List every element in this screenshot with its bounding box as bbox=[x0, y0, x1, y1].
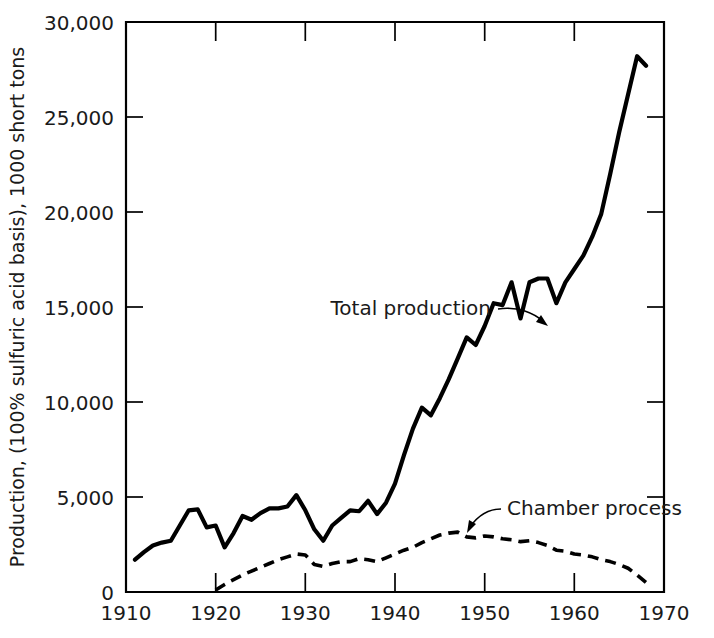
y-tick-label-10000: 10,000 bbox=[44, 391, 114, 415]
y-axis-title: Production, (100% sulfuric acid basis), … bbox=[6, 47, 28, 567]
y-tick-label-25000: 25,000 bbox=[44, 106, 114, 130]
annotation-chamber-process: Chamber process bbox=[467, 496, 682, 533]
production-line-chart: 0 5,000 10,000 15,000 20,000 25,000 30,0… bbox=[0, 0, 714, 638]
x-tick-label-1940: 1940 bbox=[370, 601, 421, 625]
y-axis-ticks-right bbox=[647, 117, 664, 497]
x-tick-label-1930: 1930 bbox=[280, 601, 331, 625]
x-tick-label-1950: 1950 bbox=[459, 601, 510, 625]
y-axis-ticks bbox=[126, 117, 143, 497]
y-tick-label-15000: 15,000 bbox=[44, 296, 114, 320]
y-tick-label-20000: 20,000 bbox=[44, 201, 114, 225]
annotation-total-production-label: Total production bbox=[330, 296, 491, 320]
annotation-chamber-process-label: Chamber process bbox=[507, 496, 682, 520]
x-axis-ticks-top bbox=[216, 22, 575, 41]
y-tick-label-5000: 5,000 bbox=[57, 486, 114, 510]
y-tick-label-30000: 30,000 bbox=[44, 11, 114, 35]
x-tick-label-1960: 1960 bbox=[549, 601, 600, 625]
series-chamber-process bbox=[216, 532, 646, 590]
x-axis-ticks bbox=[216, 573, 575, 592]
chart-figure: 0 5,000 10,000 15,000 20,000 25,000 30,0… bbox=[0, 0, 714, 638]
x-tick-label-1910: 1910 bbox=[101, 601, 152, 625]
x-tick-label-1970: 1970 bbox=[639, 601, 690, 625]
x-tick-label-1920: 1920 bbox=[190, 601, 241, 625]
